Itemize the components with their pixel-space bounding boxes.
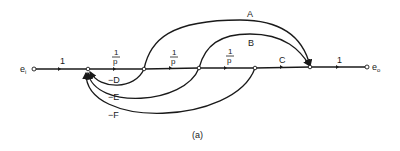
input-node [32, 67, 36, 71]
node-5 [308, 65, 312, 69]
gain-1: 1 [60, 56, 65, 66]
node-3 [197, 66, 201, 70]
svg-text:1: 1 [172, 48, 177, 57]
signal-flow-graph: ei eo 1 1 p 1 p 1 p C 1 A B −D −E −F (a) [0, 0, 400, 151]
svg-text:p: p [227, 56, 232, 65]
node-2 [142, 67, 146, 71]
gain-1-over-p-c: 1 p [226, 47, 234, 65]
output-node [365, 65, 369, 69]
svg-text:1: 1 [228, 47, 233, 56]
label-e: −E [108, 92, 119, 102]
label-f: −F [108, 110, 119, 120]
gain-c: C [279, 55, 286, 65]
svg-text:p: p [171, 57, 176, 66]
branch-b [199, 34, 310, 68]
output-label: eo [372, 62, 381, 73]
gain-out: 1 [337, 55, 342, 65]
svg-text:p: p [113, 57, 118, 66]
gain-1-over-p-a: 1 p [112, 48, 120, 66]
node-4 [253, 66, 257, 70]
input-label: ei [20, 64, 26, 75]
label-a: A [247, 9, 253, 19]
label-d: −D [108, 75, 120, 85]
gain-1-over-p-b: 1 p [170, 48, 178, 66]
svg-text:1: 1 [114, 48, 119, 57]
label-b: B [248, 38, 254, 48]
node-1 [86, 67, 90, 71]
caption: (a) [192, 130, 203, 140]
